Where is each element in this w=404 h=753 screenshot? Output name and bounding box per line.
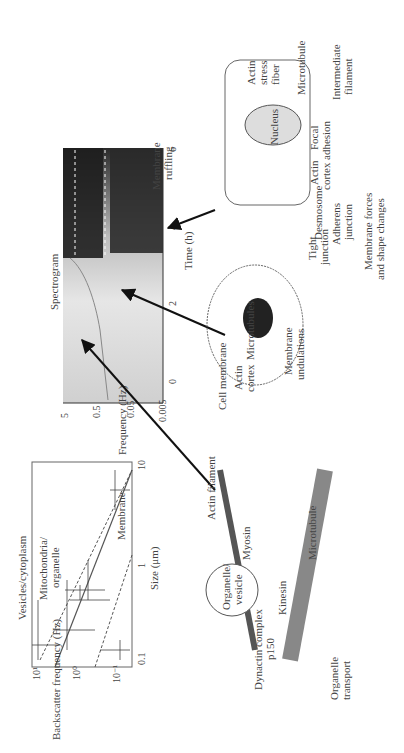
time-tick: 0 [167, 379, 178, 384]
svg-text:fiber: fiber [269, 64, 281, 85]
svg-text:stress: stress [257, 61, 269, 85]
svg-text:Membrane forces: Membrane forces [362, 193, 374, 270]
svg-text:Nucleus: Nucleus [268, 109, 280, 145]
svg-text:ruffling: ruffling [162, 146, 174, 180]
spectrogram-xlabel: Time (h) [182, 231, 195, 270]
freq-tick: 5 [59, 413, 70, 418]
svg-text:Actin: Actin [232, 365, 244, 390]
svg-text:Cell membrane: Cell membrane [216, 342, 228, 410]
spectrogram-panel: Spectrogram 5 0.5 0.05 0.005 Frequency (… [48, 147, 195, 455]
label-organelle: organelle [49, 547, 61, 588]
svg-text:Kinesin: Kinesin [276, 580, 288, 615]
svg-text:transport: transport [340, 661, 352, 700]
svg-text:Organelle/: Organelle/ [220, 563, 232, 610]
svg-text:Microtubules: Microtubules [244, 301, 256, 360]
svg-text:Actin: Actin [308, 160, 320, 185]
x-tick: 1 [136, 563, 147, 568]
svg-text:Microtubule: Microtubule [306, 506, 318, 560]
svg-text:adhesion: adhesion [320, 120, 332, 160]
svg-text:Myosin: Myosin [240, 526, 252, 560]
svg-text:Membrane: Membrane [150, 142, 162, 190]
svg-text:Adherens: Adherens [330, 203, 342, 245]
figure: Vesicles/cytoplasm Mitochondria/ organel… [0, 0, 404, 753]
svg-text:p150: p150 [264, 638, 276, 661]
y-tick: 10¹ [31, 667, 42, 680]
svg-text:filament: filament [342, 58, 354, 95]
scatter-panel: Vesicles/cytoplasm Mitochondria/ organel… [16, 460, 161, 740]
svg-text:vesicle: vesicle [232, 574, 244, 605]
time-tick: 2 [167, 301, 178, 306]
svg-text:undulations: undulations [294, 329, 306, 380]
transport-panel: Organelle/ vesicle Dynactin complex p150… [205, 456, 352, 700]
svg-text:and shape changes: and shape changes [374, 198, 386, 280]
svg-text:Desmosome: Desmosome [312, 186, 324, 241]
svg-text:Organelle: Organelle [328, 657, 340, 700]
freq-tick: 0.005 [157, 400, 168, 423]
x-tick: 0.1 [136, 653, 147, 666]
y-tick: 10⁻¹ [111, 665, 122, 683]
spectrogram-ylabel: Frequency (Hz) [116, 385, 129, 455]
svg-text:Actin: Actin [245, 60, 257, 85]
label-mitochondria: Mitochondria/ [37, 536, 49, 600]
svg-text:cortex: cortex [244, 364, 256, 392]
scatter-title: Vesicles/cytoplasm [16, 535, 28, 620]
scatter-ylabel: Backscatter frequency (Hz) [50, 619, 63, 740]
undulation-cell-panel: Cell membrane Actin cortex Microtubules … [207, 265, 306, 410]
svg-text:Focal: Focal [308, 126, 320, 150]
svg-text:Intermediate: Intermediate [330, 44, 342, 100]
y-tick: 10⁰ [71, 666, 82, 680]
svg-text:Microtubule: Microtubule [295, 41, 307, 95]
svg-text:Membrane: Membrane [282, 327, 294, 375]
x-tick: 10 [136, 460, 147, 470]
svg-text:Dynactin complex: Dynactin complex [252, 609, 264, 690]
freq-tick: 0.5 [91, 406, 102, 419]
svg-text:junction: junction [342, 203, 354, 241]
scatter-xlabel: Size (μm) [148, 546, 161, 590]
label-membrane: Membrane [115, 492, 127, 540]
svg-text:Actin filament: Actin filament [205, 456, 217, 520]
spectrogram-title: Spectrogram [48, 253, 60, 310]
